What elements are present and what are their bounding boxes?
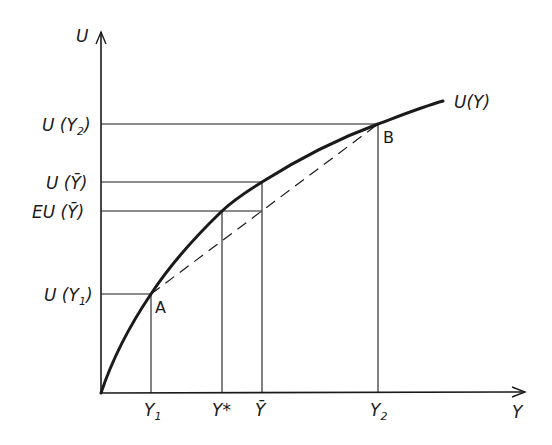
point-a-label: A bbox=[155, 298, 166, 317]
x-tick-y1: Y1 bbox=[144, 400, 161, 423]
y-tick-u-y2: U (Y2) bbox=[42, 115, 91, 138]
guide-lines bbox=[101, 124, 378, 393]
y-tick-u-y1: U (Y1) bbox=[44, 285, 93, 308]
x-tick-y2: Y2 bbox=[370, 400, 387, 423]
axes bbox=[96, 32, 525, 397]
y-tick-eu-ybar: EU (Ȳ) bbox=[32, 201, 84, 222]
chord-ab-dashed bbox=[151, 124, 378, 294]
curve-label: U(Y) bbox=[454, 92, 490, 112]
x-axis bbox=[101, 392, 525, 393]
point-b-label: B bbox=[383, 128, 394, 147]
y-axis-label: U bbox=[76, 26, 89, 46]
x-tick-ystar: Y* bbox=[212, 400, 231, 420]
expected-utility-diagram: U Y U(Y) A B U (Y2) U (Ȳ) EU (Ȳ) U (Y1) … bbox=[0, 0, 552, 445]
x-axis-label: Y bbox=[512, 402, 524, 422]
x-tick-ybar: Ȳ bbox=[255, 399, 267, 420]
y-tick-u-ybar: U (Ȳ) bbox=[46, 172, 88, 193]
